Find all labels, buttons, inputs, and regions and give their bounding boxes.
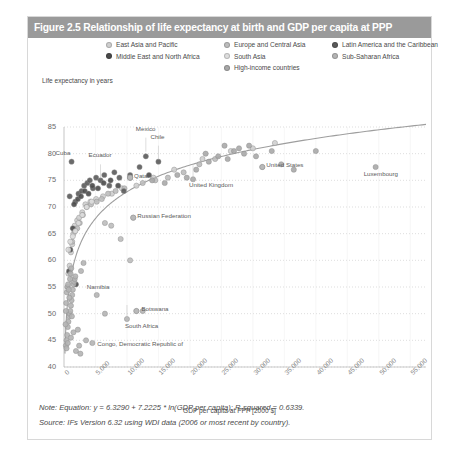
data-point[interactable] [73, 228, 78, 233]
data-point[interactable] [118, 236, 123, 241]
data-point[interactable] [76, 220, 81, 225]
data-point[interactable] [137, 164, 142, 169]
annotation-label: United Kingdom [189, 181, 233, 188]
data-point[interactable] [140, 180, 145, 185]
data-point[interactable] [117, 175, 122, 180]
data-point[interactable] [150, 178, 155, 183]
data-point[interactable] [89, 199, 94, 204]
data-point[interactable] [197, 162, 202, 167]
legend-item-middle-east-and-north-africa[interactable]: Middle East and North Africa [106, 53, 200, 60]
data-point[interactable] [78, 351, 83, 356]
data-point[interactable] [66, 247, 71, 252]
data-point[interactable] [156, 159, 161, 164]
data-point[interactable] [194, 167, 199, 172]
data-point[interactable] [253, 154, 258, 159]
data-point[interactable] [101, 180, 106, 185]
data-point[interactable] [80, 212, 85, 217]
legend-item-label: High-income countries [234, 64, 300, 71]
annotation-marker[interactable] [260, 164, 265, 169]
data-point[interactable] [134, 183, 139, 188]
data-point[interactable] [102, 220, 107, 225]
legend-item-europe-and-central-asia[interactable]: Europe and Central Asia [224, 41, 305, 48]
data-point[interactable] [246, 143, 251, 148]
data-point[interactable] [128, 258, 133, 263]
annotation-label: Cuba [56, 149, 71, 156]
data-point[interactable] [313, 148, 318, 153]
data-point[interactable] [70, 234, 75, 239]
data-point[interactable] [73, 274, 78, 279]
data-point[interactable] [71, 202, 76, 207]
annotation-marker[interactable] [131, 215, 136, 220]
data-point[interactable] [67, 295, 72, 300]
data-point[interactable] [113, 188, 118, 193]
data-point[interactable] [121, 188, 126, 193]
data-point[interactable] [77, 343, 82, 348]
data-point[interactable] [181, 170, 186, 175]
data-point[interactable] [65, 340, 70, 345]
data-point[interactable] [112, 170, 117, 175]
data-point[interactable] [69, 314, 74, 319]
data-point[interactable] [107, 183, 112, 188]
data-point[interactable] [67, 276, 72, 281]
data-point[interactable] [83, 338, 88, 343]
data-point[interactable] [175, 172, 180, 177]
data-point[interactable] [69, 159, 74, 164]
data-point[interactable] [78, 268, 83, 273]
data-point[interactable] [216, 154, 221, 159]
data-point[interactable] [165, 175, 170, 180]
data-point[interactable] [184, 175, 189, 180]
data-point[interactable] [78, 194, 83, 199]
data-point[interactable] [162, 180, 167, 185]
data-point[interactable] [143, 154, 148, 159]
data-point[interactable] [84, 204, 89, 209]
annotation-label: United States [266, 161, 303, 168]
data-point[interactable] [172, 167, 177, 172]
data-point[interactable] [272, 140, 277, 145]
data-point[interactable] [222, 143, 227, 148]
data-point[interactable] [373, 164, 378, 169]
data-point[interactable] [69, 266, 74, 271]
data-point[interactable] [68, 303, 73, 308]
data-point[interactable] [86, 191, 91, 196]
data-point[interactable] [81, 260, 86, 265]
data-point[interactable] [231, 148, 236, 153]
data-point[interactable] [105, 191, 110, 196]
data-point[interactable] [66, 287, 71, 292]
data-point[interactable] [116, 183, 121, 188]
data-point[interactable] [241, 151, 246, 156]
data-point[interactable] [94, 292, 99, 297]
data-point[interactable] [95, 186, 100, 191]
data-point[interactable] [99, 196, 104, 201]
data-point[interactable] [65, 282, 70, 287]
legend-item-sub-saharan-africa[interactable]: Sub-Saharan Africa [332, 53, 399, 60]
data-point[interactable] [64, 346, 69, 351]
data-point[interactable] [94, 199, 99, 204]
legend-item-south-asia[interactable]: South Asia [224, 53, 266, 60]
data-point[interactable] [67, 194, 72, 199]
data-point[interactable] [63, 308, 68, 313]
data-point[interactable] [90, 340, 95, 345]
data-point[interactable] [102, 311, 107, 316]
data-point[interactable] [87, 178, 92, 183]
legend-item-east-asia-and-pacific[interactable]: East Asia and Pacific [106, 41, 178, 48]
data-point[interactable] [102, 172, 107, 177]
legend-item-latin-america-and-the-caribbean[interactable]: Latin America and the Caribbean [332, 41, 438, 48]
data-point[interactable] [225, 156, 230, 161]
data-point[interactable] [68, 239, 73, 244]
data-point[interactable] [90, 183, 95, 188]
data-point[interactable] [109, 223, 114, 228]
legend-item-high-income-countries[interactable]: High-income countries [224, 64, 300, 71]
annotation-marker[interactable] [134, 308, 139, 313]
data-point[interactable] [206, 159, 211, 164]
data-point[interactable] [63, 322, 68, 327]
data-point[interactable] [64, 300, 69, 305]
data-point[interactable] [236, 146, 241, 151]
data-point[interactable] [200, 156, 205, 161]
data-point[interactable] [269, 148, 274, 153]
data-point[interactable] [68, 335, 73, 340]
data-point[interactable] [68, 271, 73, 276]
data-point[interactable] [75, 327, 80, 332]
data-point[interactable] [203, 151, 208, 156]
data-point[interactable] [108, 178, 113, 183]
annotation-marker[interactable] [128, 175, 133, 180]
